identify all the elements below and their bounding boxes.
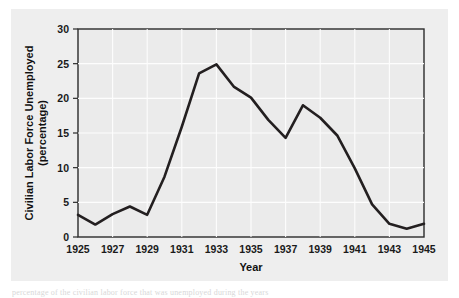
x-tick-label: 1939 xyxy=(309,243,333,255)
y-axis-title-line2: (percentage) xyxy=(36,100,48,166)
x-tick-label: 1931 xyxy=(170,243,194,255)
y-axis-tick-labels: 30 25 20 15 10 5 0 xyxy=(57,23,69,243)
y-tick-label: 10 xyxy=(57,162,69,174)
x-tick-label: 1935 xyxy=(239,243,263,255)
y-tick-label: 20 xyxy=(57,92,69,104)
chart-svg: 30 25 20 15 10 5 0 1925 1927 1929 1931 1… xyxy=(11,9,448,281)
y-axis-title-line1: Civilian Labor Force Unemployed xyxy=(23,46,35,221)
y-tick-label: 30 xyxy=(57,23,69,35)
x-tick-label: 1945 xyxy=(412,243,436,255)
y-tick-label: 15 xyxy=(57,127,69,139)
y-tick-label: 0 xyxy=(63,231,69,243)
page-caption-fragment: percentage of the civilian labor force t… xyxy=(12,288,447,297)
x-tick-label: 1941 xyxy=(343,243,367,255)
x-tick-label: 1937 xyxy=(274,243,298,255)
figure-card: 30 25 20 15 10 5 0 1925 1927 1929 1931 1… xyxy=(11,9,448,281)
y-tick-marks xyxy=(73,29,78,237)
y-tick-label: 5 xyxy=(63,196,69,208)
unemployment-line-chart: 30 25 20 15 10 5 0 1925 1927 1929 1931 1… xyxy=(11,9,448,281)
x-tick-label: 1929 xyxy=(136,243,160,255)
x-tick-label: 1933 xyxy=(205,243,229,255)
y-tick-label: 25 xyxy=(57,58,69,70)
x-tick-label: 1927 xyxy=(101,243,125,255)
y-axis-title: Civilian Labor Force Unemployed (percent… xyxy=(23,46,48,221)
x-tick-label: 1943 xyxy=(378,243,402,255)
x-axis-tick-labels: 1925 1927 1929 1931 1933 1935 1937 1939 … xyxy=(66,243,436,255)
x-tick-label: 1925 xyxy=(66,243,90,255)
x-axis-title: Year xyxy=(239,261,263,273)
